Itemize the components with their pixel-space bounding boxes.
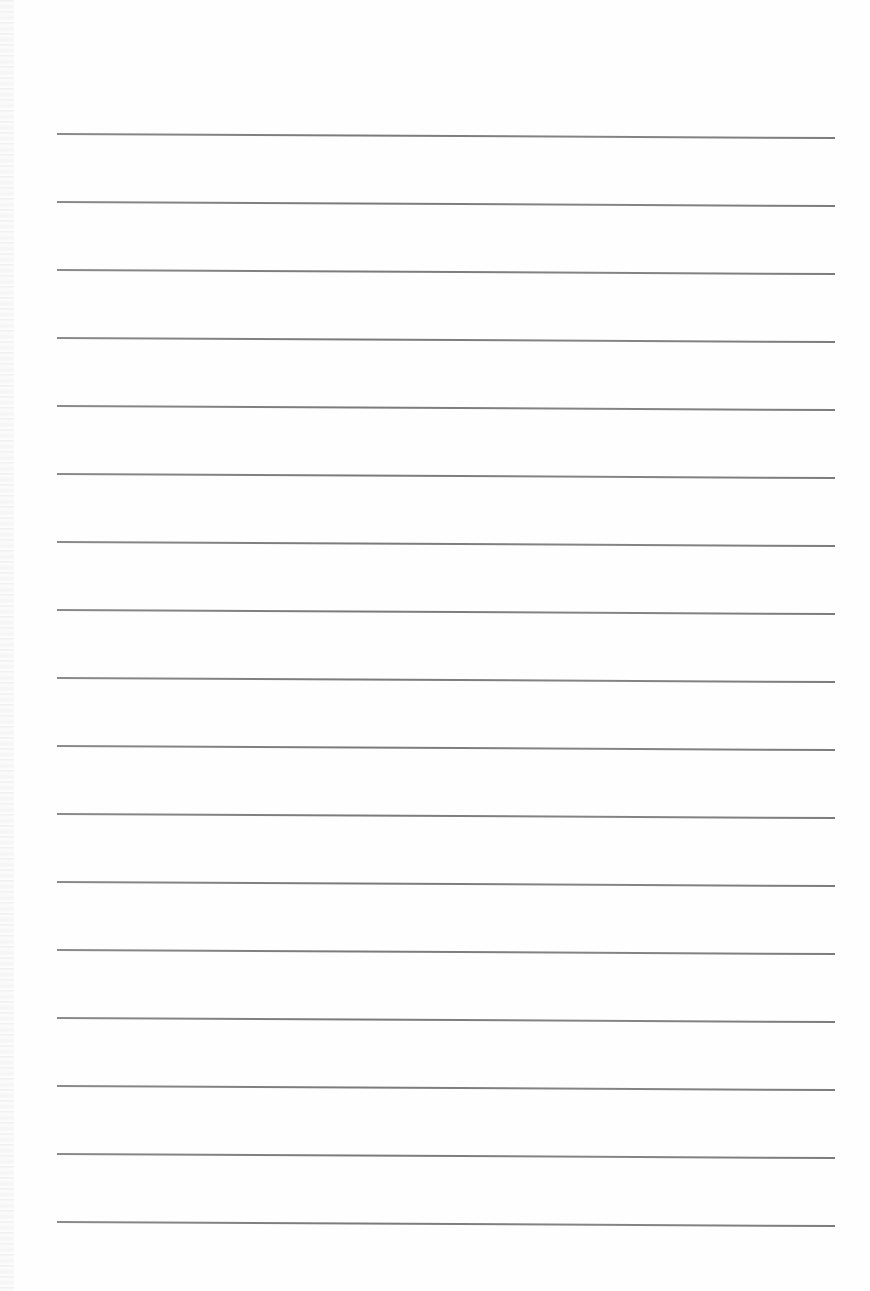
ruled-line [57, 745, 835, 751]
ruled-line [57, 609, 835, 615]
ruled-line [57, 337, 835, 343]
ruled-line [57, 133, 835, 139]
ruled-line [57, 1017, 835, 1023]
ruled-line [57, 813, 835, 819]
ruled-line [57, 881, 835, 887]
ruled-line [57, 1085, 835, 1091]
ruled-line [57, 269, 835, 275]
ruled-line [57, 949, 835, 955]
ruled-line [57, 1221, 835, 1227]
ruled-line [57, 201, 835, 207]
ruled-line [57, 1153, 835, 1159]
ruled-line [57, 405, 835, 411]
ruled-line [57, 541, 835, 547]
ruled-paper-page [0, 0, 870, 1291]
ruled-line [57, 677, 835, 683]
ruled-lines-container [0, 0, 870, 1291]
ruled-line [57, 473, 835, 479]
